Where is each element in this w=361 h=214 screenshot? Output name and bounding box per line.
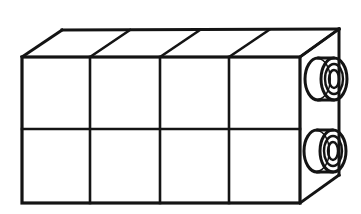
right-face-fill (300, 29, 339, 203)
figure-root: Cuboid block with two cylindrical hubs B… (0, 0, 361, 214)
technical-line-drawing: Cuboid block with two cylindrical hubs B… (0, 0, 361, 214)
body-fills (22, 29, 339, 203)
